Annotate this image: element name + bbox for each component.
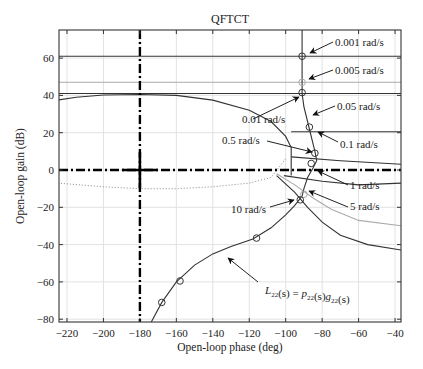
chart-svg: −220−200−180−160−140−120−100−80−60−40−80… [0, 0, 423, 369]
annotation-label: 0.005 rad/s [335, 64, 384, 76]
x-tick-label: −160 [165, 327, 188, 339]
chart-title: QFTCT [211, 12, 250, 26]
y-tick-label: 20 [43, 127, 55, 139]
annotation-arrow [309, 70, 333, 79]
annotation-label: 10 rad/s [231, 203, 266, 215]
annotation-arrow [318, 132, 338, 142]
y-tick-label: −80 [37, 313, 55, 325]
y-tick-label: 60 [43, 52, 55, 64]
x-axis-label: Open-loop phase (deg) [177, 341, 283, 354]
x-tick-label: −40 [386, 327, 404, 339]
annotation-arrow [310, 42, 333, 53]
x-tick-label: −80 [314, 327, 332, 339]
x-tick-label: −60 [350, 327, 368, 339]
x-tick-label: −140 [201, 327, 224, 339]
y-tick-label: −60 [37, 276, 55, 288]
annotation-arrow [267, 141, 312, 152]
x-tick-label: −100 [274, 327, 297, 339]
annotation-label: 0.01 rad/s [242, 113, 285, 125]
x-tick-label: −180 [129, 327, 152, 339]
annotation-arrow [270, 200, 294, 207]
annotation-label: 0.1 rad/s [340, 138, 378, 150]
y-tick-label: 40 [43, 89, 55, 101]
nichols-chart: −220−200−180−160−140−120−100−80−60−40−80… [0, 0, 423, 369]
annotation-label: 5 rad/s [350, 200, 380, 212]
series-line [284, 176, 402, 185]
y-tick-label: −40 [37, 239, 55, 251]
annotation-arrow [228, 258, 258, 282]
y-tick-label: 0 [49, 164, 55, 176]
annotation-arrow [313, 106, 335, 115]
x-tick-label: −200 [92, 327, 115, 339]
annotation-label: 0.001 rad/s [335, 36, 384, 48]
annotation-label: 0.05 rad/s [337, 100, 380, 112]
frequency-markers [158, 53, 318, 306]
annotation-label: L22(s) = p22(s)g22(s) [264, 284, 350, 306]
x-tick-label: −220 [56, 327, 79, 339]
frequency-marker [308, 160, 315, 167]
y-tick-label: −20 [37, 201, 55, 213]
annotation-label: 1 rad/s [350, 179, 380, 191]
annotation-label: 0.5 rad/s [222, 134, 260, 146]
x-tick-label: −120 [238, 327, 261, 339]
series-line [58, 159, 286, 189]
y-axis-label: Open-loop gain (dB) [14, 128, 27, 224]
